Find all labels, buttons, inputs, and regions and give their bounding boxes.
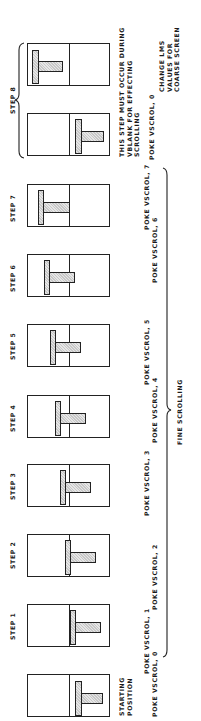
step-8-brace [0, 0, 201, 721]
fine-scrolling-brace [163, 168, 171, 657]
